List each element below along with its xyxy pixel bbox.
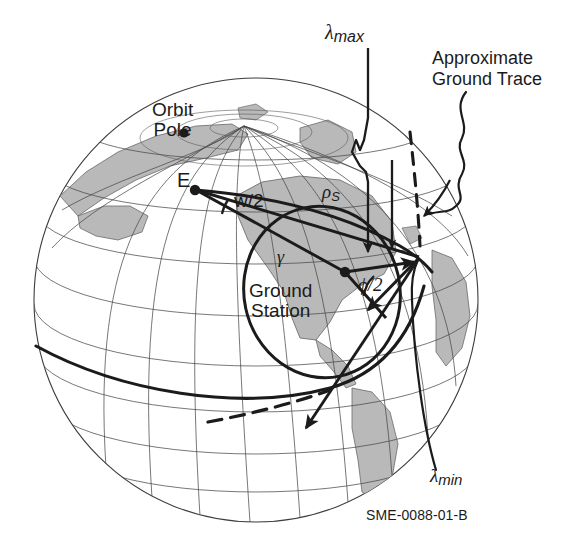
- lambda-min-label: λmin: [430, 466, 462, 488]
- approximate-ground-trace-label: ApproximateGround Trace: [432, 48, 542, 89]
- lambda-min-symbol: λ: [430, 465, 438, 486]
- earth-center-dot: [190, 185, 200, 195]
- orbit-pole-label-line2: Pole: [154, 119, 192, 140]
- phi-symbol: ϕ: [358, 274, 368, 295]
- ground-station-label: GroundStation: [249, 281, 312, 321]
- ground-station-label-line2: Station: [251, 300, 310, 321]
- ground-trace-label-line2: Ground Trace: [432, 69, 542, 89]
- figure-id-label: SME-0088-01-B: [366, 508, 468, 523]
- lambda-max-symbol: λ: [325, 21, 334, 43]
- swath-half-width-label: w/2: [234, 191, 264, 211]
- lambda-max-subscript: max: [334, 28, 364, 45]
- rho-s-subscript: S: [331, 189, 340, 204]
- phi-half-label: ϕ/2: [358, 275, 383, 295]
- earth-center-label: E: [177, 170, 190, 191]
- ground-station-label-line1: Ground: [249, 280, 312, 301]
- ground-trace-label-line1: Approximate: [432, 48, 533, 68]
- orbit-pole-label-line1: Orbit: [152, 99, 193, 120]
- gamma-label: γ: [277, 248, 284, 267]
- orbit-pole-label: OrbitPole: [152, 100, 193, 140]
- satellite-coverage-geometry-figure: OrbitPole E w/2 ρS γ GroundStation ϕ/2 λ…: [0, 0, 564, 550]
- ground-station-dot: [340, 267, 350, 277]
- lambda-min-subscript: min: [438, 471, 462, 488]
- rho-s-label: ρS: [322, 182, 340, 204]
- phi-half-rest: /2: [368, 274, 383, 295]
- lambda-max-label: λmax: [325, 22, 364, 46]
- rho-s-symbol: ρ: [322, 181, 331, 202]
